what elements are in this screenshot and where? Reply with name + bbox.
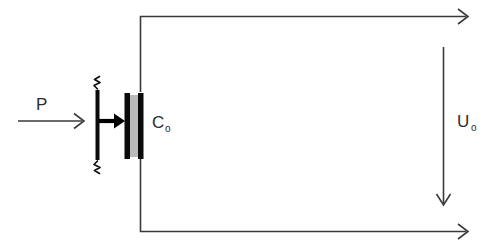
figure-root: P C o U o — [0, 0, 488, 247]
voltage-label: U — [457, 112, 469, 131]
bottom-wire — [141, 155, 467, 232]
capacitance-label: C — [152, 113, 164, 132]
capacitor-plate-right — [138, 93, 144, 159]
pressure-label: P — [36, 95, 47, 114]
capacitor-symbol — [125, 93, 144, 159]
top-wire — [141, 17, 467, 93]
spring-bottom-icon — [94, 161, 100, 174]
voltage-subscript-label: o — [471, 122, 477, 133]
spring-top-icon — [94, 77, 100, 90]
pressure-arrow — [18, 114, 84, 129]
diaphragm-bar — [96, 90, 100, 160]
diaphragm-assembly — [94, 77, 100, 174]
force-arrow-head-icon — [114, 114, 125, 129]
force-arrow — [99, 114, 125, 129]
circuit-diagram: P C o U o — [0, 0, 488, 247]
capacitance-subscript-label: o — [165, 123, 171, 134]
capacitor-plate-left — [125, 93, 131, 159]
